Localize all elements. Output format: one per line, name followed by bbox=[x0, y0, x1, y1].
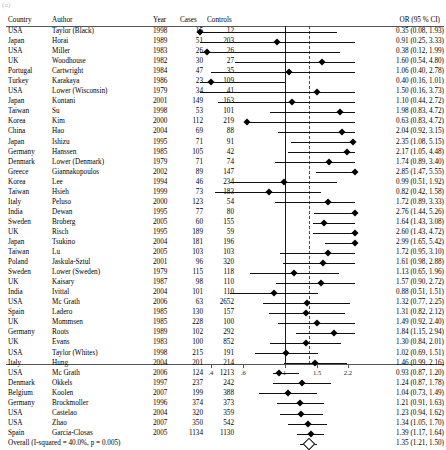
effect-estimate-marker bbox=[319, 259, 326, 266]
study-country: Japan bbox=[8, 237, 24, 247]
study-country: Germany bbox=[8, 398, 35, 408]
effect-estimate-marker bbox=[325, 249, 332, 256]
confidence-interval-line bbox=[211, 72, 355, 73]
axis-tick-label: .4 bbox=[208, 369, 213, 376]
study-year: 2002 bbox=[153, 167, 167, 177]
study-or-value: 0.82 (0.42, 1.58) bbox=[396, 187, 444, 197]
confidence-interval-line bbox=[200, 32, 337, 33]
column-header-year: Year bbox=[153, 14, 166, 26]
study-or-value: 0.99 (0.51, 1.92) bbox=[396, 177, 444, 187]
study-author: Mommsen bbox=[52, 317, 83, 327]
effect-estimate-marker bbox=[317, 279, 324, 286]
study-or-value: 1.72 (0.95, 3.10) bbox=[396, 247, 444, 257]
study-or-value: 0.88 (0.51, 1.51) bbox=[396, 287, 444, 297]
axis-tick-label: 2.2 bbox=[344, 369, 352, 376]
effect-estimate-marker bbox=[291, 269, 298, 276]
study-or-value: 1.10 (0.44, 2.72) bbox=[396, 96, 444, 106]
effect-estimate-marker bbox=[271, 289, 278, 296]
study-or-value: 1.02 (0.69, 1.51) bbox=[396, 348, 444, 358]
study-country: UK bbox=[8, 227, 18, 237]
study-or-value: 1.49 (0.92, 2.40) bbox=[396, 317, 444, 327]
study-or-value: 0.38 (0.12, 1.99) bbox=[396, 46, 444, 56]
confidence-interval-line bbox=[280, 253, 355, 254]
study-country: UK bbox=[8, 337, 18, 347]
study-author: Garcia-Closas bbox=[52, 428, 93, 438]
study-or-value: 1.04 (0.73, 1.49) bbox=[396, 388, 444, 398]
study-country: Denmark bbox=[8, 378, 35, 388]
study-author: Taylor (Whites) bbox=[52, 348, 98, 358]
study-year: 1985 bbox=[153, 307, 167, 317]
study-country: Japan bbox=[8, 137, 24, 147]
study-year: 1985 bbox=[153, 317, 167, 327]
study-country: Korea bbox=[8, 177, 26, 187]
study-or-value: 1.13 (0.65, 1.96) bbox=[396, 267, 444, 277]
table-row: USAZhao20073505421.34 (1.05, 1.70) bbox=[0, 418, 446, 428]
study-author: Jaskula-Sztul bbox=[52, 257, 90, 267]
study-year: 2004 bbox=[153, 126, 167, 136]
study-or-value: 0.63 (0.83, 4.72) bbox=[396, 116, 444, 126]
effect-estimate-marker bbox=[336, 108, 343, 115]
study-year: 1979 bbox=[153, 267, 167, 277]
study-year: 1987 bbox=[153, 277, 167, 287]
study-country: Germany bbox=[8, 327, 35, 337]
study-or-value: 1.06 (0.40, 2.78) bbox=[396, 66, 444, 76]
study-country: Turkey bbox=[8, 76, 29, 86]
study-country: Germany bbox=[8, 147, 35, 157]
study-author: Hung bbox=[52, 358, 68, 368]
study-author: Lower (Denmark) bbox=[52, 157, 104, 167]
effect-estimate-marker bbox=[289, 98, 296, 105]
study-author: Su bbox=[52, 106, 60, 116]
study-year: 1999 bbox=[153, 187, 167, 197]
study-author: Woodhouse bbox=[52, 56, 86, 66]
study-author: Zhao bbox=[52, 418, 67, 428]
confidence-interval-line bbox=[313, 233, 355, 234]
study-or-value: 2.60 (1.43, 4.72) bbox=[396, 227, 444, 237]
study-author: Brockmoller bbox=[52, 398, 88, 408]
study-author: Lower (Sweden) bbox=[52, 267, 100, 277]
study-author: Peluso bbox=[52, 197, 71, 207]
study-author: Koolen bbox=[52, 388, 73, 398]
axis-tick bbox=[211, 364, 212, 368]
effect-estimate-marker bbox=[343, 149, 350, 156]
study-country: Japan bbox=[8, 96, 24, 106]
study-author: Lower (Wisconsin) bbox=[52, 86, 107, 96]
study-or-value: 0.91 (0.25, 3.33) bbox=[396, 36, 444, 46]
study-country: USA bbox=[8, 368, 22, 378]
axis-tick-label: 1 bbox=[283, 369, 286, 376]
confidence-interval-line bbox=[296, 333, 355, 334]
study-author: Evans bbox=[52, 337, 70, 347]
study-year: 2004 bbox=[153, 237, 167, 247]
effect-estimate-marker bbox=[265, 189, 272, 196]
study-author: Karakaya bbox=[52, 76, 80, 86]
axis-tick-label: .6 bbox=[241, 369, 246, 376]
column-header-or: OR (95 % CI) bbox=[399, 14, 440, 26]
study-author: Risch bbox=[52, 227, 68, 237]
study-author: Okkels bbox=[52, 378, 72, 388]
study-country: Spain bbox=[8, 428, 24, 438]
confidence-interval-line bbox=[235, 62, 355, 63]
study-country: China bbox=[8, 126, 25, 136]
study-or-value: 2.76 (1.44, 5.26) bbox=[396, 207, 444, 217]
study-or-value: 2.04 (0.92, 3.15) bbox=[396, 126, 444, 136]
overall-label: Overall (I-squared = 40.0%, p = 0.005) bbox=[8, 438, 121, 448]
study-country: Korea bbox=[8, 116, 26, 126]
study-country: Italy bbox=[8, 358, 21, 368]
study-country: USA bbox=[8, 86, 22, 96]
study-author: Hanssen bbox=[52, 147, 76, 157]
study-author: Roots bbox=[52, 327, 69, 337]
study-country: USA bbox=[8, 408, 22, 418]
table-row: GermanyBrockmoller19963743731.21 (0.91, … bbox=[0, 398, 446, 408]
study-country: UK bbox=[8, 277, 18, 287]
confidence-interval-line bbox=[275, 162, 355, 163]
study-or-value: 1.31 (0.82, 2.12) bbox=[396, 307, 444, 317]
effect-estimate-marker bbox=[338, 129, 345, 136]
study-country: USA bbox=[8, 418, 22, 428]
effect-estimate-marker bbox=[314, 88, 321, 95]
study-controls: 542 bbox=[210, 418, 234, 428]
study-or-value: 1.50 (0.16, 3.73) bbox=[396, 86, 444, 96]
axis-tick bbox=[348, 364, 349, 368]
study-cases: 1134 bbox=[183, 428, 203, 438]
effect-estimate-marker bbox=[273, 38, 280, 45]
study-author: Dewan bbox=[52, 207, 72, 217]
